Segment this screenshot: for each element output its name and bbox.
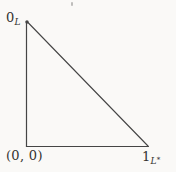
figure-canvas: 0L (0, 0) 1L*	[0, 0, 176, 172]
right-label-subscript: L*	[151, 156, 161, 166]
right-label-main: 1	[142, 149, 151, 164]
triangle-diagram	[0, 0, 176, 172]
origin-label: (0, 0)	[6, 149, 43, 162]
origin-label-text: (0, 0)	[6, 148, 43, 163]
right-vertex-label: 1L*	[142, 150, 161, 166]
scan-artifact-speck	[71, 2, 73, 6]
hypotenuse-line	[27, 22, 148, 147]
apex-vertex-dot	[25, 20, 28, 23]
apex-label: 0L	[6, 11, 21, 27]
apex-label-subscript: L	[15, 17, 21, 27]
right-label-sub-star: *	[157, 156, 161, 164]
apex-label-main: 0	[6, 10, 15, 25]
